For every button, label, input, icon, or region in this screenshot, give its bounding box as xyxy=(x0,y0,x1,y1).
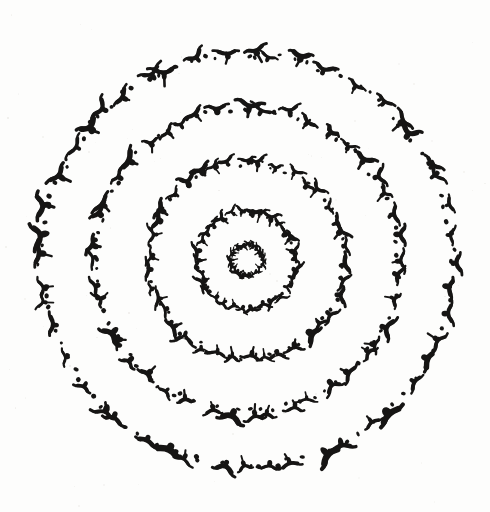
bird-rings-canvas xyxy=(0,0,490,512)
artwork-frame xyxy=(0,0,490,512)
